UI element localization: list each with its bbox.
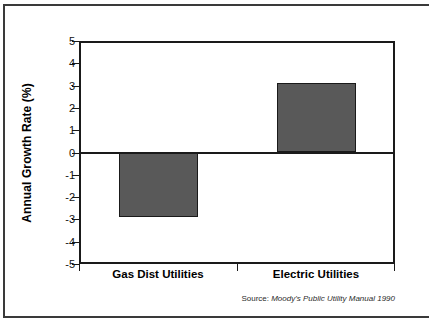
bar-1 xyxy=(119,153,198,218)
source-note-title: Moody's Public Utility Manual 1990 xyxy=(271,294,395,303)
y-axis-tick-label: -3 xyxy=(65,211,75,227)
figure-border-top xyxy=(3,4,429,6)
y-axis-tick-label: 0 xyxy=(69,145,75,161)
x-axis-category-label: Electric Utilities xyxy=(237,268,395,280)
plot-area: 543210-1-2-3-4-5 xyxy=(79,41,395,264)
y-axis-tick-label: -2 xyxy=(65,189,75,205)
figure-chart: Annual Growth Rate (%) 543210-1-2-3-4-5 … xyxy=(0,0,431,332)
y-axis-tick-label: 5 xyxy=(69,33,75,49)
figure-border-bottom xyxy=(3,316,429,318)
y-axis-tick-label: 1 xyxy=(69,122,75,138)
y-axis-title: Annual Growth Rate (%) xyxy=(18,60,36,246)
source-note: Source: Moody's Public Utility Manual 19… xyxy=(241,294,395,303)
y-axis-tick-label: 3 xyxy=(69,78,75,94)
y-axis-tick-label: -4 xyxy=(65,234,75,250)
figure-border-left xyxy=(3,4,5,318)
y-axis-tick-label: -1 xyxy=(65,167,75,183)
source-note-prefix: Source: xyxy=(241,294,271,303)
y-axis-tick-label: 4 xyxy=(69,55,75,71)
y-axis-title-text: Annual Growth Rate (%) xyxy=(20,83,34,223)
bar-2 xyxy=(277,83,356,152)
y-axis-tick-label: -5 xyxy=(65,256,75,272)
x-axis-category-label: Gas Dist Utilities xyxy=(79,268,237,280)
y-axis-tick-label: 2 xyxy=(69,100,75,116)
